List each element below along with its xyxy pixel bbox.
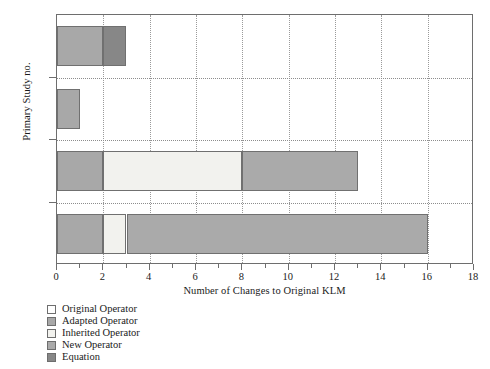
x-minor-tick-mark <box>357 264 358 268</box>
x-minor-tick-mark <box>126 264 127 268</box>
plot-area <box>56 14 473 264</box>
bar-group <box>57 89 472 129</box>
legend-item-label: New Operator <box>62 339 122 351</box>
x-tick-label-0: 0 <box>36 271 76 282</box>
x-tick-label-2: 2 <box>82 271 122 282</box>
x-tick-mark <box>380 264 381 270</box>
legend-item: Original Operator <box>47 303 140 315</box>
x-minor-tick-mark <box>404 264 405 268</box>
bar-segment <box>127 214 428 254</box>
x-tick-label-16: 16 <box>407 271 447 282</box>
x-tick-label-10: 10 <box>268 271 308 282</box>
x-tick-mark <box>56 264 57 270</box>
legend-swatch-icon <box>47 329 56 338</box>
bar-segment <box>57 214 103 254</box>
x-tick-mark <box>427 264 428 270</box>
legend-item-label: Inherited Operator <box>62 327 140 339</box>
legend-item-label: Adapted Operator <box>62 315 138 327</box>
x-tick-label-4: 4 <box>129 271 169 282</box>
bar-segment <box>103 26 126 66</box>
bar-segment <box>57 26 103 66</box>
gridline-horizontal <box>57 140 472 141</box>
plot-inner <box>57 15 472 263</box>
legend-swatch-icon <box>47 353 56 362</box>
x-tick-label-18: 18 <box>453 271 490 282</box>
x-tick-mark <box>334 264 335 270</box>
bar-group <box>57 151 472 191</box>
x-tick-mark <box>288 264 289 270</box>
y-axis-title: Primary Study no. <box>21 32 32 172</box>
legend-swatch-icon <box>47 305 56 314</box>
x-tick-label-12: 12 <box>314 271 354 282</box>
y-tick-mark <box>49 77 56 78</box>
bar-chart-figure: Primary Study no. Number of Changes to O… <box>0 0 490 369</box>
x-minor-tick-mark <box>218 264 219 268</box>
x-tick-mark <box>241 264 242 270</box>
y-tick-mark <box>49 202 56 203</box>
legend-item: New Operator <box>47 339 140 351</box>
x-minor-tick-mark <box>265 264 266 268</box>
legend-item: Adapted Operator <box>47 315 140 327</box>
x-tick-mark <box>195 264 196 270</box>
x-minor-tick-mark <box>79 264 80 268</box>
bar-group <box>57 26 472 66</box>
bar-segment <box>103 151 242 191</box>
x-tick-label-14: 14 <box>360 271 400 282</box>
legend-item: Equation <box>47 351 140 363</box>
y-tick-mark <box>49 139 56 140</box>
x-tick-mark <box>473 264 474 270</box>
x-tick-mark <box>149 264 150 270</box>
x-minor-tick-mark <box>450 264 451 268</box>
bar-segment <box>57 151 103 191</box>
x-tick-label-6: 6 <box>175 271 215 282</box>
x-tick-label-8: 8 <box>221 271 261 282</box>
gridline-horizontal <box>57 78 472 79</box>
bar-segment <box>103 214 126 254</box>
legend-item-label: Equation <box>62 351 100 363</box>
x-minor-tick-mark <box>172 264 173 268</box>
x-tick-mark <box>102 264 103 270</box>
x-minor-tick-mark <box>311 264 312 268</box>
legend-swatch-icon <box>47 317 56 326</box>
bar-segment <box>57 89 80 129</box>
bar-group <box>57 214 472 254</box>
gridline-horizontal <box>57 203 472 204</box>
legend-item: Inherited Operator <box>47 327 140 339</box>
bar-segment <box>242 151 358 191</box>
legend-swatch-icon <box>47 341 56 350</box>
chart-legend: Original OperatorAdapted OperatorInherit… <box>47 303 140 363</box>
x-axis-title: Number of Changes to Original KLM <box>56 285 473 296</box>
legend-item-label: Original Operator <box>62 303 137 315</box>
